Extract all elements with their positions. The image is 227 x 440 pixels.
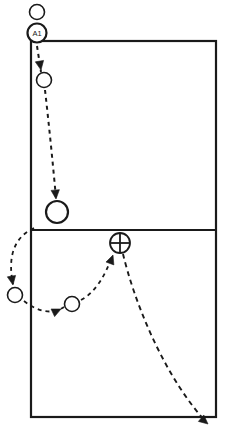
player-marker-back-left[interactable] — [8, 288, 23, 303]
player-marker-attack-large[interactable] — [46, 201, 68, 223]
player-start-marker-top[interactable] — [30, 5, 45, 20]
court-diagram: A1 — [0, 0, 227, 440]
player-labels-group: A1 — [32, 29, 41, 38]
diagram-background — [0, 0, 227, 440]
player-marker-back-mid[interactable] — [65, 297, 80, 312]
player-label-a1: A1 — [32, 29, 41, 38]
court-diagram-canvas: A1 — [0, 0, 227, 440]
player-marker-approach-1[interactable] — [37, 73, 52, 88]
